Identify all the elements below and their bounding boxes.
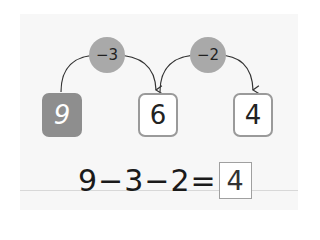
result-box-1: 6 [138, 93, 178, 137]
start-number-box: 9 [42, 93, 82, 137]
result-box-2: 4 [233, 93, 273, 137]
answer-box[interactable]: 4 [219, 162, 252, 199]
equation-term: 2 [170, 163, 189, 198]
equation-term: 3 [124, 163, 143, 198]
minus-sign: − [98, 163, 123, 198]
operation-circle-1: −3 [89, 37, 125, 73]
minus-sign: − [144, 163, 169, 198]
operation-circle-2: −2 [190, 37, 226, 73]
equation-term: 9 [78, 163, 97, 198]
operation-label: −2 [197, 46, 219, 64]
start-value: 9 [54, 100, 71, 130]
equation: 9 − 3 − 2 = 4 [78, 160, 252, 200]
result-value: 6 [150, 100, 167, 130]
operation-label: −3 [96, 46, 118, 64]
equals-sign: = [191, 163, 216, 198]
result-value: 4 [245, 100, 262, 130]
